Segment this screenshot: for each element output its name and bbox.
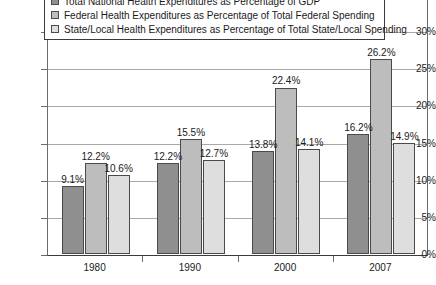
legend-swatch-icon	[51, 11, 59, 19]
bar-value-label: 12.2%	[149, 152, 187, 162]
bar	[370, 59, 392, 254]
bar-value-label: 12.7%	[195, 149, 233, 159]
bar	[347, 134, 369, 254]
y-axis-tick-label: 10%	[400, 176, 436, 186]
legend-item: State/Local Health Expenditures as Perce…	[51, 22, 379, 36]
x-axis-group-separator	[333, 256, 334, 262]
y-axis-tick-mark	[41, 144, 47, 145]
y-axis-tick-mark	[41, 218, 47, 219]
bar	[157, 163, 179, 254]
chart-legend: Total National Health Expenditures as Pe…	[44, 0, 385, 40]
legend-item-label: Total National Health Expenditures as Pe…	[64, 0, 320, 7]
legend-item: Federal Health Expenditures as Percentag…	[51, 8, 379, 22]
y-axis-tick-mark	[41, 106, 47, 107]
bar-value-label: 14.1%	[290, 138, 328, 148]
x-axis-group-separator	[238, 256, 239, 262]
y-axis-tick-mark	[41, 255, 47, 256]
bar-value-label: 9.1%	[54, 175, 92, 185]
bar	[108, 175, 130, 254]
x-axis-tick-label: 1980	[47, 262, 142, 273]
bar-value-label: 15.5%	[172, 128, 210, 138]
y-axis-tick-label: 25%	[400, 64, 436, 74]
legend-item-label: Federal Health Expenditures as Percentag…	[64, 10, 375, 21]
bar-value-label: 10.6%	[100, 164, 138, 174]
bar	[203, 160, 225, 254]
y-axis-tick-label: 20%	[400, 101, 436, 111]
x-axis-tick-label: 1990	[142, 262, 237, 273]
legend-item: Total National Health Expenditures as Pe…	[51, 0, 379, 8]
y-axis-tick-label: 15%	[400, 139, 436, 149]
legend-swatch-icon	[51, 0, 59, 5]
bar-value-label: 16.2%	[339, 123, 377, 133]
y-axis-tick-mark	[41, 181, 47, 182]
bar-value-label: 26.2%	[362, 48, 400, 58]
bar	[62, 186, 84, 254]
y-axis-tick-label: 5%	[400, 213, 436, 223]
y-axis-tick-label: 0%	[400, 250, 436, 260]
y-axis-tick-mark	[41, 69, 47, 70]
bar	[252, 151, 274, 254]
legend-item-label: State/Local Health Expenditures as Perce…	[64, 24, 407, 35]
bar-value-label: 22.4%	[267, 76, 305, 86]
bar	[393, 143, 415, 254]
legend-swatch-icon	[51, 25, 59, 33]
bar	[298, 149, 320, 254]
x-axis-group-separator	[142, 256, 143, 262]
bar-value-label: 12.2%	[77, 152, 115, 162]
bar-value-label: 13.8%	[244, 140, 282, 150]
grouped-bar-chart: 9.1%12.2%10.6%12.2%15.5%12.7%13.8%22.4%1…	[0, 0, 436, 285]
bar	[275, 88, 297, 255]
x-axis-tick-label: 2007	[333, 262, 428, 273]
x-axis-tick-label: 2000	[238, 262, 333, 273]
